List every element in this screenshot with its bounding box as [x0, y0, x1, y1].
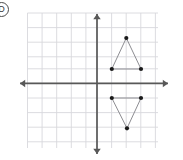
coordinate-plot [0, 0, 183, 160]
axis-arrowhead [163, 80, 168, 87]
figure-canvas: D [0, 0, 183, 160]
upper-triangle-vertex [110, 67, 114, 71]
upper-triangle-vertex [124, 36, 128, 40]
upper-triangle-vertex [139, 67, 143, 71]
axis-arrowhead [20, 80, 25, 87]
axis-arrowhead [93, 14, 100, 19]
lower-triangle-vertex [125, 126, 129, 130]
lower-triangle-vertex [110, 96, 114, 100]
axis-arrowhead [93, 149, 100, 154]
lower-triangle-vertex [139, 96, 143, 100]
grid-lines [28, 13, 159, 148]
